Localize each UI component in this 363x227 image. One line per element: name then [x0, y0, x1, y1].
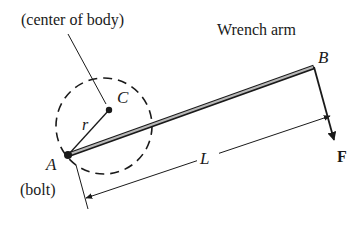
bolt-label: (bolt): [20, 181, 56, 199]
dimension-extension-line: [76, 165, 88, 209]
body-boundary-circle: [56, 78, 152, 174]
point-b-label: B: [318, 48, 329, 67]
center-of-body-label: (center of body): [21, 11, 124, 29]
point-c-label: C: [117, 88, 129, 107]
center-leader-line: [68, 34, 106, 104]
force-label: F: [337, 148, 347, 165]
point-a-label: A: [45, 155, 57, 174]
point-c-dot: [106, 107, 112, 113]
point-a-dot: [64, 151, 72, 159]
wrench-arm-label: Wrench arm: [217, 21, 296, 38]
force-arrow: [314, 67, 334, 140]
radius-label: r: [82, 116, 89, 133]
wrench-torque-diagram: (center of body) Wrench arm C B r A (bol…: [0, 0, 363, 227]
length-label: L: [199, 149, 209, 168]
